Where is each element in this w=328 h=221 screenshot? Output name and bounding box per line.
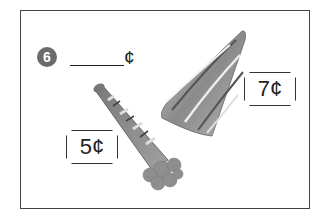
party-hat-icon <box>162 31 246 136</box>
problem-number-badge: 6 <box>37 47 57 67</box>
price-hat: 7¢ <box>258 76 282 102</box>
cent-symbol: ¢ <box>124 47 135 69</box>
price-tag-hat: 7¢ <box>244 72 296 106</box>
price-tag-horn: 5¢ <box>66 130 118 164</box>
price-horn: 5¢ <box>80 134 104 160</box>
answer-blank[interactable] <box>70 65 124 66</box>
party-illustration <box>0 0 328 221</box>
